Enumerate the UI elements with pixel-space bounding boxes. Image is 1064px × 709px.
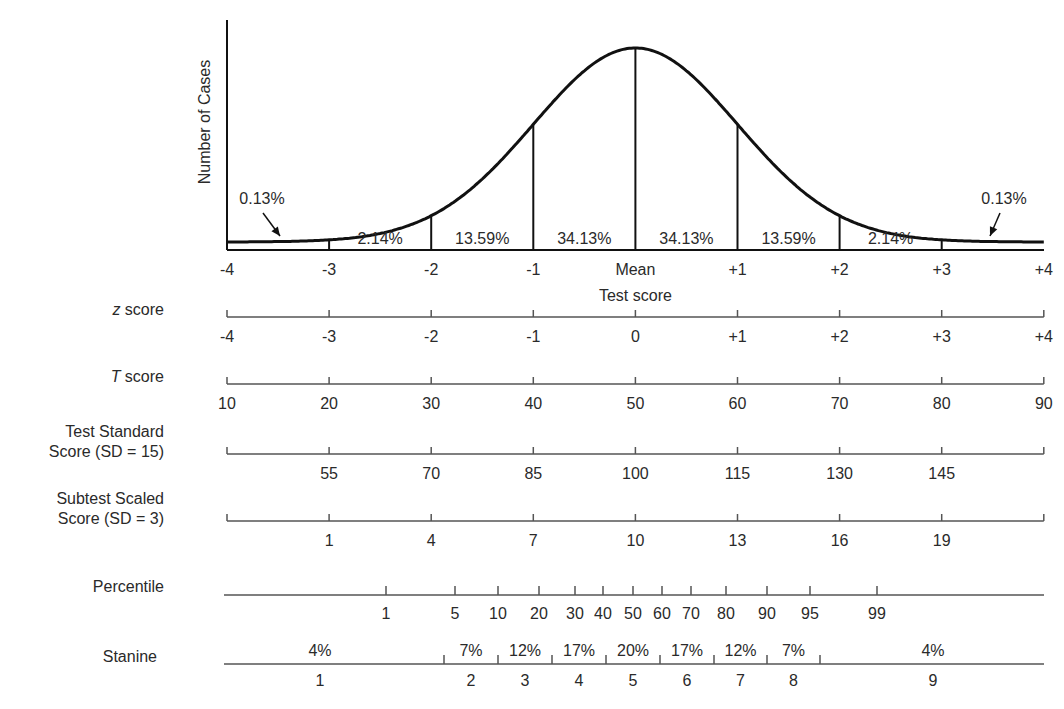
normal-curve-chart: Number of Cases-4-3-2-1Mean+1+2+3+4Test … — [0, 0, 1064, 709]
scale-tick-label: 85 — [524, 465, 542, 482]
stanine-scale: Stanine4%17%212%317%420%517%612%77%84%9 — [103, 642, 1044, 689]
x-tick-label: +1 — [728, 261, 746, 278]
scale-tick-label: 16 — [831, 532, 849, 549]
scale-label: T score — [111, 368, 164, 385]
area-percent-label: 13.59% — [455, 230, 509, 247]
score-scales: z score-4-3-2-10+1+2+3+4T score102030405… — [49, 301, 1053, 549]
stanine-percent: 20% — [617, 642, 649, 659]
percentile-label: 60 — [653, 605, 671, 622]
scale-tick-label: 115 — [725, 465, 751, 482]
stanine-number: 7 — [736, 672, 745, 689]
stanine-number: 4 — [575, 672, 584, 689]
stanine-percent: 7% — [782, 642, 805, 659]
area-percent-label: 2.14% — [868, 230, 913, 247]
area-percent-label: 0.13% — [239, 190, 284, 207]
area-percent-label: 34.13% — [557, 230, 611, 247]
stanine-number: 3 — [521, 672, 530, 689]
scale-tick-label: -2 — [424, 328, 438, 345]
area-percent-label: 2.14% — [357, 230, 402, 247]
scale-tick-label: 70 — [422, 465, 440, 482]
scale-label: Subtest Scaled — [56, 490, 164, 507]
stanine-number: 9 — [929, 672, 938, 689]
scale-row: T score102030405060708090 — [111, 368, 1053, 412]
percentile-label: 5 — [451, 605, 460, 622]
scale-label: Stanine — [103, 648, 157, 665]
percentile-scale: Percentile151020304050607080909599 — [93, 578, 1044, 622]
percentile-label: 90 — [758, 605, 776, 622]
stanine-number: 5 — [629, 672, 638, 689]
scale-tick-label: 80 — [933, 395, 951, 412]
percentile-label: 30 — [566, 605, 584, 622]
stanine-percent: 12% — [724, 642, 756, 659]
percentile-label: 1 — [382, 605, 391, 622]
area-percent-label: 34.13% — [659, 230, 713, 247]
scale-label: Score (SD = 3) — [58, 510, 164, 527]
arrow-head-icon — [271, 226, 280, 236]
x-tick-label: Mean — [615, 261, 655, 278]
scale-tick-label: 130 — [826, 465, 853, 482]
scale-row: Test StandardScore (SD = 15)557085100115… — [49, 423, 1044, 482]
scale-tick-label: 90 — [1035, 395, 1053, 412]
scale-tick-label: 10 — [627, 532, 645, 549]
stanine-percent: 12% — [509, 642, 541, 659]
x-tick-label: -1 — [526, 261, 540, 278]
scale-tick-label: 40 — [524, 395, 542, 412]
percentile-label: 70 — [682, 605, 700, 622]
scale-label: Score (SD = 15) — [49, 443, 164, 460]
x-tick-label: -3 — [322, 261, 336, 278]
percentile-label: 99 — [868, 605, 886, 622]
scale-tick-label: 7 — [529, 532, 538, 549]
scale-tick-label: 70 — [831, 395, 849, 412]
scale-tick-label: 19 — [933, 532, 951, 549]
scale-tick-label: -3 — [322, 328, 336, 345]
scale-tick-label: 13 — [729, 532, 747, 549]
scale-label: Percentile — [93, 578, 164, 595]
percentile-label: 40 — [594, 605, 612, 622]
scale-tick-label: 10 — [218, 395, 236, 412]
scale-tick-label: 20 — [320, 395, 338, 412]
stanine-number: 6 — [683, 672, 692, 689]
scale-tick-label: 30 — [422, 395, 440, 412]
stanine-percent: 17% — [671, 642, 703, 659]
y-axis-label: Number of Cases — [196, 60, 213, 185]
scale-tick-label: 1 — [325, 532, 334, 549]
percentile-label: 20 — [530, 605, 548, 622]
stanine-number: 1 — [316, 672, 325, 689]
scale-tick-label: +4 — [1035, 328, 1053, 345]
scale-label: Test Standard — [65, 423, 164, 440]
scale-tick-label: -1 — [526, 328, 540, 345]
stanine-percent: 17% — [563, 642, 595, 659]
x-tick-label: -2 — [424, 261, 438, 278]
scale-tick-label: +1 — [728, 328, 746, 345]
scale-tick-label: +3 — [933, 328, 951, 345]
stanine-number: 2 — [467, 672, 476, 689]
scale-row: Subtest ScaledScore (SD = 3)14710131619 — [56, 490, 1043, 549]
stanine-percent: 7% — [459, 642, 482, 659]
percentile-label: 80 — [717, 605, 735, 622]
scale-tick-label: 100 — [622, 465, 649, 482]
x-axis-label: Test score — [599, 287, 672, 304]
x-tick-label: +2 — [830, 261, 848, 278]
scale-tick-label: +2 — [830, 328, 848, 345]
percentile-label: 10 — [489, 605, 507, 622]
stanine-percent: 4% — [921, 642, 944, 659]
scale-label: z score — [111, 301, 164, 318]
scale-tick-label: 55 — [320, 465, 338, 482]
area-percent-label: 13.59% — [761, 230, 815, 247]
stanine-number: 8 — [789, 672, 798, 689]
x-tick-label: +4 — [1035, 261, 1053, 278]
area-percent-label: 0.13% — [981, 190, 1026, 207]
percentile-label: 95 — [801, 605, 819, 622]
x-tick-label: +3 — [933, 261, 951, 278]
stanine-percent: 4% — [308, 642, 331, 659]
scale-tick-label: 60 — [729, 395, 747, 412]
percentile-label: 50 — [624, 605, 642, 622]
x-tick-label: -4 — [220, 261, 234, 278]
bell-curve-plot: Number of Cases-4-3-2-1Mean+1+2+3+4Test … — [196, 20, 1053, 304]
scale-tick-label: 50 — [627, 395, 645, 412]
scale-tick-label: -4 — [220, 328, 234, 345]
scale-tick-label: 145 — [928, 465, 955, 482]
scale-tick-label: 0 — [631, 328, 640, 345]
scale-row: z score-4-3-2-10+1+2+3+4 — [111, 301, 1053, 345]
scale-tick-label: 4 — [427, 532, 436, 549]
